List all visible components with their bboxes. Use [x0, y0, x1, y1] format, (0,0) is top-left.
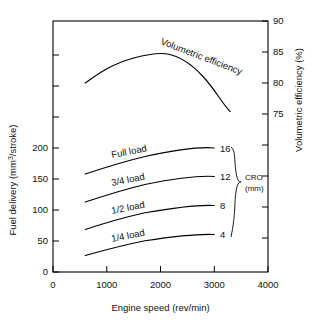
y-axis-right-ticks: [262, 21, 268, 238]
full-load-curve: [85, 148, 214, 174]
y-left-tick-label-100: 100: [32, 204, 48, 215]
series-full-load: Full load 16: [85, 142, 230, 174]
x-tick-label-1: 1000: [96, 279, 117, 290]
x-tick-label-2: 2000: [150, 279, 171, 290]
volumetric-efficiency-label: Volumetric efficiency: [159, 36, 244, 77]
y-left-tick-label-150: 150: [32, 173, 48, 184]
y-left-tick-label-0: 0: [43, 266, 48, 277]
half-load-endpoint-value: 8: [220, 200, 225, 211]
y-right-tick-label-85: 85: [273, 46, 284, 57]
y-axis-left: 200 150 100 50 0 Fuel delivery (mm3/stro…: [7, 55, 60, 277]
y-right-tick-label-90: 90: [273, 15, 284, 26]
y-left-tick-label-200: 200: [32, 142, 48, 153]
y-right-tick-label-75: 75: [273, 108, 284, 119]
engine-fuel-delivery-chart: 0 1000 2000 3000 4000 Engine speed (rev/…: [0, 0, 312, 322]
cro-label-line1: CRO: [245, 173, 263, 182]
series-three-quarter-load: 3/4 load 12: [85, 171, 230, 202]
y-right-tick-label-80: 80: [273, 77, 284, 88]
y-axis-left-title-pre: Fuel delivery (mm: [7, 160, 18, 236]
x-axis: 0 1000 2000 3000 4000 Engine speed (rev/…: [50, 266, 278, 313]
cro-bracket: [231, 147, 241, 237]
x-axis-title: Engine speed (rev/min): [111, 302, 209, 313]
series-volumetric-efficiency: Volumetric efficiency: [85, 36, 244, 112]
x-axis-tick-labels: 0 1000 2000 3000 4000: [50, 279, 278, 290]
three-quarter-load-curve: [85, 176, 214, 202]
y-axis-left-title: Fuel delivery (mm3/stroke): [7, 124, 19, 235]
series-half-load: 1/2 load 8: [85, 199, 225, 230]
cro-label-line2: (mm): [245, 184, 264, 193]
full-load-endpoint-value: 16: [220, 143, 231, 154]
y-axis-left-ticks: [53, 55, 59, 272]
y-left-tick-label-50: 50: [37, 235, 48, 246]
quarter-load-endpoint-value: 4: [220, 229, 225, 240]
series-quarter-load: 1/4 load 4: [85, 227, 225, 256]
cro-bracket-group: CRO (mm): [231, 147, 264, 237]
half-load-curve: [85, 205, 214, 229]
y-axis-left-title-post: /stroke): [7, 124, 18, 156]
x-tick-label-0: 0: [50, 279, 55, 290]
plot-frame: [53, 21, 268, 272]
x-axis-ticks: [53, 266, 268, 272]
y-axis-left-tick-labels: 200 150 100 50 0: [32, 142, 48, 277]
x-tick-label-4: 4000: [257, 279, 278, 290]
y-axis-right-title: Volumetric efficiency (%): [293, 48, 304, 152]
chart-container: 0 1000 2000 3000 4000 Engine speed (rev/…: [0, 0, 312, 322]
x-tick-label-3: 3000: [204, 279, 225, 290]
three-quarter-load-endpoint-value: 12: [220, 171, 231, 182]
quarter-load-curve: [85, 234, 214, 255]
y-axis-right-tick-labels: 90 85 80 75: [273, 15, 284, 119]
